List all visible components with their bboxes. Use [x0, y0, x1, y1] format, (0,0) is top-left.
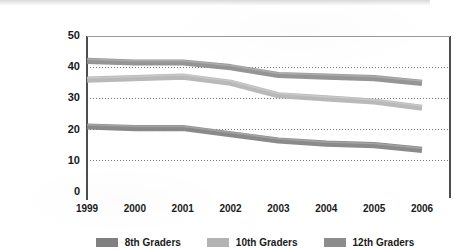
plot-area [40, 16, 455, 251]
legend-item[interactable]: 10th Graders [207, 237, 298, 248]
chart-legend: 8th Graders10th Graders12th Graders [40, 230, 455, 251]
line-chart: 50403020100 1999200020012002200320042005… [40, 16, 455, 251]
x-axis-tick-label: 2001 [162, 203, 204, 214]
legend-swatch-icon [324, 238, 346, 247]
scan-artifact-band [0, 0, 430, 5]
x-axis-tick-label: 2000 [114, 203, 156, 214]
x-axis-tick-label: 1999 [66, 203, 108, 214]
x-axis-tick-label: 2006 [401, 203, 443, 214]
y-axis-tick-label: 40 [54, 60, 80, 72]
legend-label: 8th Graders [125, 237, 181, 248]
legend-label: 12th Graders [353, 237, 415, 248]
y-axis-tick-label: 30 [54, 91, 80, 103]
x-axis-tick-label: 2003 [257, 203, 299, 214]
y-axis-tick-label: 20 [54, 123, 80, 135]
legend-swatch-icon [207, 238, 229, 247]
legend-item[interactable]: 8th Graders [96, 237, 181, 248]
legend-item[interactable]: 12th Graders [324, 237, 415, 248]
series-lines [87, 59, 422, 150]
y-axis-tick-label: 50 [54, 29, 80, 41]
y-axis-tick-label: 0 [54, 185, 80, 197]
legend-label: 10th Graders [236, 237, 298, 248]
y-axis-tick-label: 10 [54, 154, 80, 166]
legend-swatch-icon [96, 238, 118, 247]
x-axis-tick-label: 2004 [305, 203, 347, 214]
x-axis-tick-label: 2002 [210, 203, 252, 214]
x-axis-tick-label: 2005 [353, 203, 395, 214]
